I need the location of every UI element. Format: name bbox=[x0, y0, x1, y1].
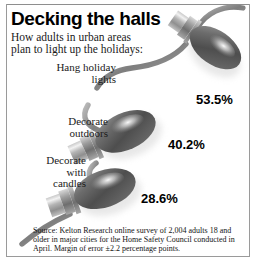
bulb-graphic-1 bbox=[159, 4, 252, 87]
frame-rule-right bbox=[249, 4, 250, 257]
category-label-2: Decorate outdoors bbox=[12, 116, 108, 139]
category-label-3: Decorate with candles bbox=[2, 155, 86, 190]
value-label-1: 53.5% bbox=[196, 92, 233, 107]
source-note: Source: Kelton Research online survey of… bbox=[33, 226, 241, 253]
category-label-1: Hang holiday lights bbox=[20, 62, 116, 85]
frame-rule-top bbox=[6, 4, 250, 5]
frame-rule-bottom bbox=[6, 256, 250, 257]
infographic-panel: Decking the halls How adults in urban ar… bbox=[0, 0, 255, 263]
value-label-3: 28.6% bbox=[141, 191, 178, 206]
subtitle: How adults in urban areas plan to light … bbox=[11, 32, 143, 55]
page-title: Decking the halls bbox=[11, 8, 160, 29]
value-label-2: 40.2% bbox=[168, 137, 205, 152]
frame-rule-left bbox=[6, 4, 7, 257]
